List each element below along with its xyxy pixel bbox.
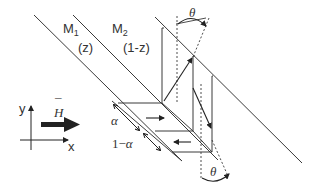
dashed-reference-lines	[176, 16, 228, 180]
arrow-up-tilted	[164, 58, 192, 101]
theta-label-bottom: θ	[210, 164, 217, 179]
alpha-label: α	[111, 113, 119, 128]
theta-label-top: θ	[189, 5, 196, 20]
arrow-down-tilted	[193, 88, 211, 128]
angle-arcs	[178, 18, 229, 181]
layer-m1-label: M1	[63, 21, 79, 38]
layer-boundary-middle	[73, 15, 218, 160]
field-h-overbar: ¯	[54, 96, 62, 111]
one-minus-alpha-label: 1−α	[112, 136, 134, 151]
layer-m1-fraction: (z)	[78, 40, 93, 55]
layer-m2-fraction: (1-z)	[123, 40, 150, 55]
axis-x-label: x	[68, 139, 75, 154]
layer-m2-label: M2	[112, 21, 128, 38]
axis-y-label: y	[19, 101, 26, 116]
magnetic-layers-diagram: M1 (z) M2 (1-z) θ θ α 1−α H ¯ y x	[0, 0, 316, 188]
layer-boundary-left	[34, 15, 182, 161]
